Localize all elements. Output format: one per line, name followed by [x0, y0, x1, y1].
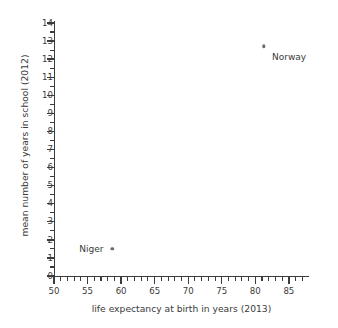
x-tick-minor: [235, 277, 236, 281]
x-tick-minor: [141, 277, 142, 281]
y-tick-minor: [50, 68, 54, 69]
x-tick-label: 60: [109, 287, 133, 296]
y-tick-label: 4: [39, 199, 53, 208]
y-tick-minor: [50, 266, 54, 267]
x-tick-minor: [302, 277, 303, 281]
x-tick-minor: [228, 277, 229, 281]
y-tick-label: 2: [39, 236, 53, 245]
x-tick-minor: [168, 277, 169, 281]
y-tick-label: 7: [39, 145, 53, 154]
x-tick-major: [120, 277, 121, 284]
y-tick-minor: [50, 31, 54, 32]
data-point[interactable]: [262, 45, 265, 48]
x-tick-minor: [208, 277, 209, 281]
x-tick-minor: [215, 277, 216, 281]
y-tick-label: 8: [39, 127, 53, 136]
y-axis-title: mean number of years in school (2012): [19, 36, 30, 256]
y-axis-line: [54, 21, 55, 277]
x-tick-major: [154, 277, 155, 284]
x-tick-major: [255, 277, 256, 284]
y-tick-label: 13: [39, 37, 53, 46]
x-tick-minor: [107, 277, 108, 281]
x-tick-minor: [100, 277, 101, 281]
x-tick-minor: [134, 277, 135, 281]
x-tick-major: [53, 277, 54, 284]
y-tick-minor: [50, 230, 54, 231]
x-tick-minor: [80, 277, 81, 281]
y-tick-label: 12: [39, 55, 53, 64]
x-tick-major: [188, 277, 189, 284]
y-tick-label: 9: [39, 109, 53, 118]
x-tick-minor: [114, 277, 115, 281]
x-tick-minor: [94, 277, 95, 281]
y-tick-minor: [50, 140, 54, 141]
x-tick-minor: [67, 277, 68, 281]
y-tick-minor: [50, 248, 54, 249]
x-tick-minor: [201, 277, 202, 281]
x-tick-label: 50: [42, 287, 66, 296]
y-tick-label: 5: [39, 181, 53, 190]
x-tick-minor: [127, 277, 128, 281]
x-tick-minor: [261, 277, 262, 281]
x-tick-minor: [275, 277, 276, 281]
y-tick-minor: [50, 158, 54, 159]
x-tick-minor: [74, 277, 75, 281]
y-tick-label: 14: [39, 19, 53, 28]
x-tick-major: [288, 277, 289, 284]
x-tick-label: 80: [243, 287, 267, 296]
y-tick-label: 11: [39, 73, 53, 82]
x-tick-label: 65: [143, 287, 167, 296]
x-tick-minor: [60, 277, 61, 281]
x-tick-minor: [194, 277, 195, 281]
scatter-plot: 01234567891011121314 5055606570758085 No…: [0, 0, 338, 328]
x-tick-minor: [268, 277, 269, 281]
y-tick-minor: [50, 104, 54, 105]
x-tick-label: 85: [277, 287, 301, 296]
x-tick-minor: [282, 277, 283, 281]
x-tick-minor: [181, 277, 182, 281]
y-tick-minor: [50, 176, 54, 177]
y-tick-label: 6: [39, 163, 53, 172]
y-tick-minor: [50, 86, 54, 87]
y-tick-label: 0: [39, 272, 53, 281]
data-point[interactable]: [111, 247, 114, 250]
x-tick-label: 55: [76, 287, 100, 296]
x-tick-minor: [295, 277, 296, 281]
y-tick-minor: [50, 50, 54, 51]
y-tick-minor: [50, 122, 54, 123]
x-tick-major: [221, 277, 222, 284]
x-tick-minor: [147, 277, 148, 281]
x-tick-minor: [161, 277, 162, 281]
x-tick-major: [87, 277, 88, 284]
y-tick-label: 10: [39, 91, 53, 100]
y-tick-minor: [50, 194, 54, 195]
data-point-label: Norway: [272, 53, 306, 62]
y-tick-label: 1: [39, 254, 53, 263]
data-point-label: Niger: [79, 244, 103, 253]
x-tick-minor: [248, 277, 249, 281]
x-tick-minor: [241, 277, 242, 281]
x-tick-minor: [174, 277, 175, 281]
y-tick-label: 3: [39, 217, 53, 226]
x-tick-label: 70: [176, 287, 200, 296]
x-tick-label: 75: [210, 287, 234, 296]
y-tick-minor: [50, 212, 54, 213]
x-axis-title: life expectancy at birth in years (2013): [54, 303, 309, 314]
